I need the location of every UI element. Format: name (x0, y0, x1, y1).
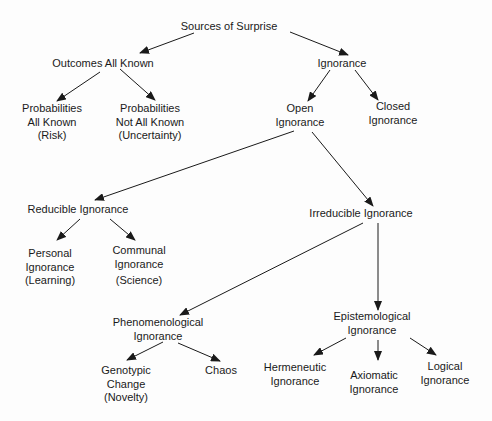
arrow-ignorance-to-open_ignorance (308, 70, 330, 101)
arrow-phenomenological-to-chaos (178, 343, 220, 361)
node-label-line-1: Logical (421, 360, 470, 374)
node-label-line-2: Change (101, 378, 151, 392)
node-probabilities-not-all-known: Probabilities Not All Known (Uncertainty… (116, 102, 184, 143)
node-label-line-1: Probabilities (22, 102, 82, 116)
arrow-open_ignorance-to-irreducible (312, 132, 373, 206)
node-logical-ignorance: Logical Ignorance (421, 360, 470, 387)
node-label-line-3: (Risk) (22, 129, 82, 143)
node-label-line-1: Communal (112, 244, 165, 258)
arrow-irreducible-to-phenomenological (180, 223, 363, 315)
node-epistemological-ignorance: Epistemological Ignorance (333, 310, 410, 337)
node-label: Outcomes All Known (52, 57, 154, 71)
arrow-root-to-outcomes_known (140, 33, 194, 53)
node-label: Irreducible Ignorance (309, 207, 412, 221)
node-open-ignorance: Open Ignorance (276, 102, 325, 129)
node-label-line-2: Ignorance (350, 383, 399, 397)
node-label-line-2: All Known (22, 116, 82, 130)
node-sources-of-surprise: Sources of Surprise (181, 20, 278, 34)
node-hermeneutic-ignorance: Hermeneutic Ignorance (264, 361, 326, 388)
node-label-line-2: Ignorance (421, 374, 470, 388)
node-label-line-3: (Uncertainty) (116, 129, 184, 143)
node-irreducible-ignorance: Irreducible Ignorance (309, 207, 412, 221)
arrow-reducible-to-personal (57, 219, 80, 240)
node-label-line-2: Ignorance (333, 324, 410, 338)
sources-of-surprise-diagram: Sources of Surprise Outcomes All Known I… (0, 0, 492, 421)
node-phenomenological-ignorance: Phenomenological Ignorance (113, 316, 204, 343)
node-label-line-3: (Novelty) (101, 391, 151, 405)
node-label-line-2: Ignorance (264, 375, 326, 389)
node-communal-ignorance: Communal Ignorance (Science) (112, 244, 165, 288)
node-closed-ignorance: Closed Ignorance (369, 100, 418, 127)
arrow-epistemological-to-logical (410, 338, 436, 355)
node-label: Ignorance (318, 57, 367, 71)
node-label: Reducible Ignorance (28, 203, 129, 217)
node-label-line-2: Ignorance (369, 114, 418, 128)
arrow-reducible-to-communal (110, 219, 135, 240)
node-label-line-2: Ignorance (113, 330, 204, 344)
node-label-line-1: Hermeneutic (264, 361, 326, 375)
node-label-line-1: Phenomenological (113, 316, 204, 330)
node-chaos: Chaos (205, 364, 237, 378)
node-label-line-3: (Science) (112, 274, 165, 288)
node-personal-ignorance: Personal Ignorance (Learning) (25, 247, 75, 288)
node-label-line-2: Ignorance (25, 261, 75, 275)
node-ignorance: Ignorance (318, 57, 367, 71)
node-label-line-1: Probabilities (116, 102, 184, 116)
node-label-line-3: (Learning) (25, 274, 75, 288)
node-label-line-2: Ignorance (112, 258, 165, 272)
arrow-root-to-ignorance (290, 32, 348, 55)
node-label-line-2: Ignorance (276, 116, 325, 130)
node-label-line-1: Genotypic (101, 364, 151, 378)
arrow-epistemological-to-hermeneutic (314, 338, 346, 355)
node-probabilities-all-known: Probabilities All Known (Risk) (22, 102, 82, 143)
arrow-ignorance-to-closed_ignorance (355, 70, 378, 100)
node-label-line-2: Not All Known (116, 116, 184, 130)
node-reducible-ignorance: Reducible Ignorance (28, 203, 129, 217)
node-label: Sources of Surprise (181, 20, 278, 34)
node-genotypic-change: Genotypic Change (Novelty) (101, 364, 151, 405)
node-axiomatic-ignorance: Axiomatic Ignorance (350, 369, 399, 396)
node-label: Chaos (205, 364, 237, 378)
node-label-line-1: Personal (25, 247, 75, 261)
node-outcomes-all-known: Outcomes All Known (52, 57, 154, 71)
arrow-outcomes_known-to-prob_not_known (120, 69, 155, 100)
node-label-line-1: Axiomatic (350, 369, 399, 383)
node-label-line-1: Open (276, 102, 325, 116)
node-label-line-1: Epistemological (333, 310, 410, 324)
node-label-line-1: Closed (369, 100, 418, 114)
arrow-phenomenological-to-genotypic (127, 342, 163, 360)
arrow-outcomes_known-to-prob_known (57, 72, 100, 101)
